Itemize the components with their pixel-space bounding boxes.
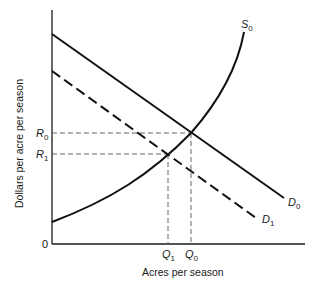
demand-curve-d1: [52, 71, 256, 218]
x-axis-title: Acres per season: [142, 266, 224, 278]
label-q0-sub: 0: [194, 254, 199, 263]
label-d1-name: D: [262, 213, 270, 225]
label-q1-sub: 1: [171, 254, 176, 263]
label-q0: Q0: [185, 248, 199, 263]
label-r0-sub: 0: [44, 133, 49, 142]
label-r1-name: R: [36, 148, 44, 160]
origin-label: 0: [42, 238, 48, 250]
label-s0: S0: [241, 18, 253, 33]
label-r0: R0: [36, 127, 49, 142]
label-d0-sub: 0: [296, 202, 301, 211]
label-d0: D0: [288, 196, 301, 211]
label-d1-sub: 1: [270, 219, 275, 228]
label-d1: D1: [262, 213, 275, 228]
supply-demand-diagram: S0 D0 D1 R0 R1 Q1 Q0 0 Acres per season …: [0, 0, 322, 281]
supply-curve-s0: [52, 32, 244, 222]
label-r1: R1: [36, 148, 49, 163]
label-r1-sub: 1: [44, 154, 49, 163]
label-q1: Q1: [162, 248, 176, 263]
y-axis-title: Dollars per acre per season: [13, 79, 25, 208]
label-d0-name: D: [288, 196, 296, 208]
label-r0-name: R: [36, 127, 44, 139]
label-s0-sub: 0: [248, 24, 253, 33]
